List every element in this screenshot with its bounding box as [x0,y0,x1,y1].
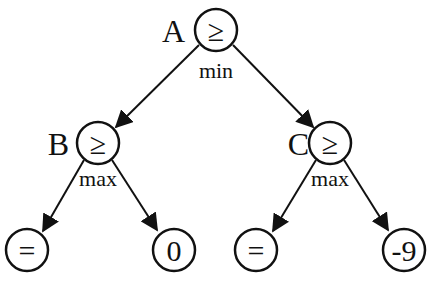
node-A-label: A [162,13,185,49]
leaf-3-value: = [248,234,265,267]
node-B-type: max [79,166,117,191]
edge-B-L2 [112,160,157,230]
leaf-3: = [235,229,277,271]
game-tree-diagram: ≥ A min ≥ B max ≥ C max = 0 = -9 [0,0,435,283]
node-C-label: C [288,126,309,162]
leaf-4-value: -9 [392,234,417,267]
leaf-2-value: 0 [167,234,182,267]
node-B: ≥ B max [48,122,119,191]
node-C-type: max [311,166,349,191]
edge-C-L3 [273,160,316,231]
node-A-type: min [199,58,233,83]
edge-A-C [233,45,313,127]
node-C-symbol: ≥ [322,127,338,160]
node-C: ≥ C max [288,122,351,191]
edge-B-L1 [43,160,84,231]
edge-A-B [116,45,199,127]
leaf-1: = [6,229,48,271]
leaf-2: 0 [153,229,195,271]
node-B-label: B [48,126,69,162]
node-A-symbol: ≥ [208,14,224,47]
node-B-symbol: ≥ [90,127,106,160]
edge-C-L4 [344,160,388,230]
leaf-4: -9 [383,229,425,271]
leaf-1-value: = [19,234,36,267]
